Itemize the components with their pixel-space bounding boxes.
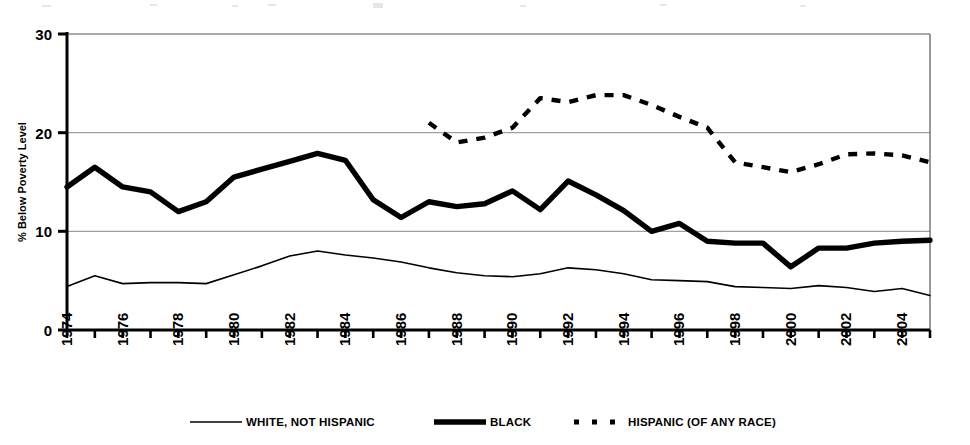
y-tick-label-0: 0 [44, 322, 52, 339]
scan-artifact-band [0, 0, 970, 14]
x-tick-label-1982: 1982 [281, 313, 298, 346]
x-tick-label-2002: 2002 [837, 313, 854, 346]
x-tick-label-1994: 1994 [615, 312, 632, 346]
x-tick-label-1992: 1992 [559, 313, 576, 346]
chart-canvas: 30 20 10 0 % Below Poverty Level 1974197… [0, 0, 970, 445]
legend-label-black: BLACK [490, 416, 532, 428]
x-tick-label-1986: 1986 [392, 313, 409, 346]
y-tick-label-30: 30 [35, 26, 52, 43]
plot-area-background [67, 34, 930, 330]
y-tick-label-20: 20 [35, 125, 52, 142]
x-tick-label-2000: 2000 [782, 313, 799, 346]
x-tick-label-2004: 2004 [893, 312, 910, 346]
x-tick-label-1978: 1978 [169, 313, 186, 346]
y-tick-label-10: 10 [35, 223, 52, 240]
legend-label-hispanic: HISPANIC (OF ANY RACE) [628, 416, 776, 428]
chart-legend: WHITE, NOT HISPANIC BLACK HISPANIC (OF A… [190, 416, 776, 428]
x-tick-label-1974: 1974 [58, 312, 75, 346]
y-axis-title: % Below Poverty Level [16, 122, 28, 242]
x-tick-label-1988: 1988 [448, 313, 465, 346]
x-tick-label-1984: 1984 [336, 312, 353, 346]
x-tick-label-1998: 1998 [726, 313, 743, 346]
x-tick-label-1980: 1980 [225, 313, 242, 346]
x-tick-label-1996: 1996 [670, 313, 687, 346]
legend-label-white: WHITE, NOT HISPANIC [246, 416, 375, 428]
x-tick-label-1990: 1990 [503, 313, 520, 346]
x-tick-label-1976: 1976 [114, 313, 131, 346]
poverty-rate-line-chart: 30 20 10 0 % Below Poverty Level 1974197… [0, 0, 970, 445]
